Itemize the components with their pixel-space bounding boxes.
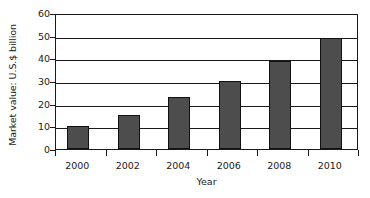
x-axis-tick-mark bbox=[308, 150, 309, 156]
bars-group bbox=[56, 15, 357, 149]
y-axis-title: Market value: U.S.$ billion bbox=[4, 10, 22, 160]
y-axis-tick-label: 20 bbox=[26, 100, 50, 110]
y-axis-tick-label: 30 bbox=[26, 77, 50, 87]
bar bbox=[320, 38, 342, 149]
bar bbox=[168, 97, 190, 149]
x-axis-tick-label: 2010 bbox=[300, 160, 360, 171]
y-axis-tick-mark bbox=[50, 59, 56, 60]
y-axis-tick-mark bbox=[50, 127, 56, 128]
y-axis-tick-mark bbox=[50, 105, 56, 106]
y-axis-tick-label: 0 bbox=[26, 145, 50, 155]
y-axis-tick-labels: 0102030405060 bbox=[26, 14, 50, 150]
bar bbox=[219, 81, 241, 149]
plot-area bbox=[55, 14, 358, 150]
y-axis-tick-label: 60 bbox=[26, 9, 50, 19]
x-axis-tick-mark bbox=[156, 150, 157, 156]
y-axis-tick-mark bbox=[50, 14, 56, 15]
x-axis-tick-mark bbox=[55, 150, 56, 156]
x-axis-tick-mark bbox=[257, 150, 258, 156]
x-axis-tick-mark bbox=[207, 150, 208, 156]
x-axis-tick-mark bbox=[358, 150, 359, 156]
y-axis-tick-label: 40 bbox=[26, 54, 50, 64]
y-axis-tick-mark bbox=[50, 82, 56, 83]
bar bbox=[67, 126, 89, 149]
y-axis-tick-mark bbox=[50, 37, 56, 38]
bar-chart: Market value: U.S.$ billion 010203040506… bbox=[0, 0, 370, 198]
bar bbox=[269, 61, 291, 149]
y-axis-tick-label: 50 bbox=[26, 32, 50, 42]
bar bbox=[118, 115, 140, 149]
y-axis-tick-label: 10 bbox=[26, 122, 50, 132]
x-axis-tick-mark bbox=[106, 150, 107, 156]
x-axis-title: Year bbox=[55, 176, 358, 187]
